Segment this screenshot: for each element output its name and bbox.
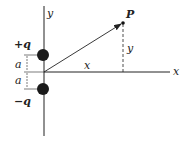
positive-charge-label: +q [14, 38, 31, 51]
distance-label-upper: a [15, 58, 22, 71]
negative-charge-label: −q [14, 95, 31, 108]
point-p-label: P [125, 8, 135, 21]
position-vector [44, 24, 121, 72]
y-axis-label: y [46, 7, 54, 20]
distance-label-lower: a [15, 74, 22, 87]
x-axis-label: x [173, 65, 180, 78]
y-segment-label: y [126, 42, 134, 55]
dipole-diagram: y x +q −q a a P x y [0, 0, 188, 146]
x-segment-label: x [84, 59, 91, 72]
